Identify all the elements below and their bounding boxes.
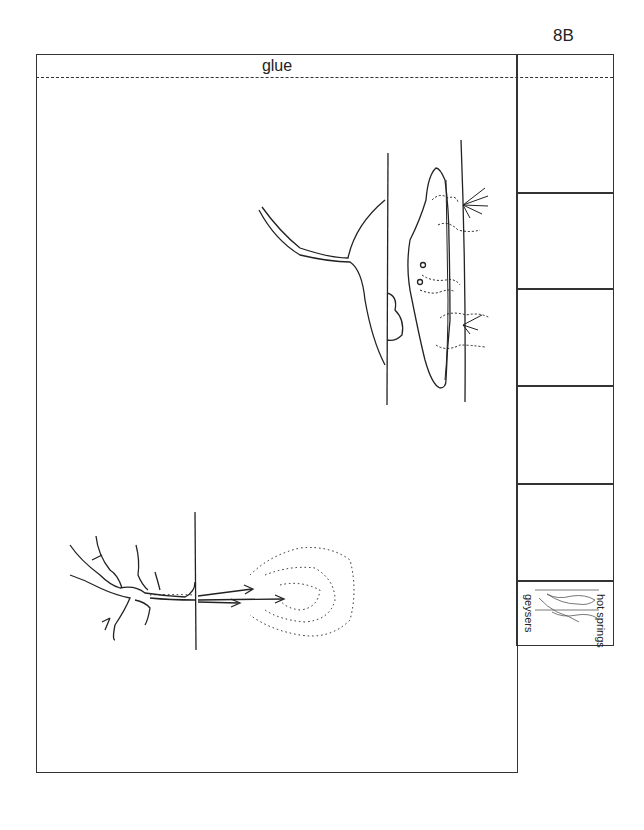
hot-springs-diagram (259, 140, 490, 405)
geyser-diagram (70, 512, 354, 650)
figures-layer (0, 0, 644, 830)
